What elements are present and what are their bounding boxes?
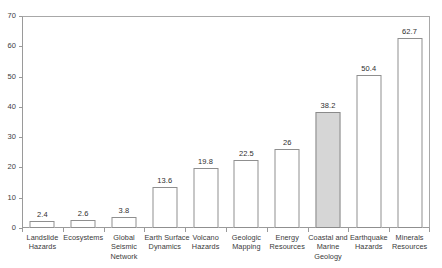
x-axis-category-label-line: Earth Surface	[144, 233, 185, 242]
bar-value-label: 3.8	[119, 206, 130, 215]
x-axis-category-label-line: Volcano	[185, 233, 226, 242]
y-axis-tick-label: 10	[7, 193, 16, 202]
bar-group: 22.5	[226, 16, 267, 228]
x-axis-tick-mark	[104, 228, 105, 232]
bar-value-label: 38.2	[320, 101, 335, 110]
bar	[193, 168, 218, 228]
y-axis-tick-label: 70	[7, 11, 16, 20]
bar	[315, 112, 340, 228]
x-axis-category-label-line: Geologic	[226, 233, 267, 242]
x-axis-category-label: LandslideHazards	[22, 233, 63, 252]
bar	[111, 217, 136, 229]
x-axis-tick-mark	[63, 228, 64, 232]
x-axis-category-label-line: Earthquake	[348, 233, 389, 242]
bar	[30, 221, 55, 228]
x-axis-category-label: GeologicMapping	[226, 233, 267, 252]
bar	[152, 187, 177, 228]
x-axis-labels: LandslideHazardsEcosystemsGlobalSeismicN…	[22, 233, 430, 268]
y-axis-tick-label: 30	[7, 132, 16, 141]
x-axis-category-label-line: Geology	[308, 252, 349, 261]
y-axis-tick-label: 60	[7, 41, 16, 50]
bar-group: 3.8	[104, 16, 145, 228]
bar	[71, 220, 96, 228]
x-axis-category-label-line: Mapping	[226, 242, 267, 251]
x-axis-ticks	[22, 228, 430, 232]
x-axis-category-label-line: Energy	[267, 233, 308, 242]
x-axis-category-label-line: Resources	[267, 242, 308, 251]
bar	[275, 149, 300, 228]
x-axis-tick-mark	[429, 228, 430, 232]
bar-group: 2.4	[22, 16, 63, 228]
x-axis-category-label: Ecosystems	[63, 233, 104, 242]
x-axis-category-label: EarthquakeHazards	[348, 233, 389, 252]
bar-value-label: 50.4	[361, 64, 376, 73]
x-axis-category-label: Earth SurfaceDynamics	[144, 233, 185, 252]
bar-group: 62.7	[389, 16, 430, 228]
bar-group: 2.6	[63, 16, 104, 228]
bar-value-label: 62.7	[402, 27, 417, 36]
x-axis-category-label-line: Minerals	[389, 233, 430, 242]
x-axis-category-label-line: Hazards	[185, 242, 226, 251]
x-axis-category-label-line: Network	[104, 252, 145, 261]
x-axis-tick-mark	[226, 228, 227, 232]
x-axis-category-label-line: Hazards	[348, 242, 389, 251]
y-axis-tick-label: 40	[7, 102, 16, 111]
bar-value-label: 19.8	[198, 157, 213, 166]
bar-chart: 010203040506070 2.42.63.813.619.822.5263…	[0, 0, 442, 268]
x-axis-category-label: GlobalSeismicNetwork	[104, 233, 145, 261]
x-axis-tick-mark	[308, 228, 309, 232]
bar	[397, 38, 422, 228]
bar-value-label: 2.4	[37, 210, 48, 219]
bar	[356, 75, 381, 228]
x-axis-category-label: VolcanoHazards	[185, 233, 226, 252]
y-axis: 010203040506070	[0, 16, 22, 228]
bar-group: 26	[267, 16, 308, 228]
x-axis-tick-mark	[185, 228, 186, 232]
x-axis-category-label: MineralsResources	[389, 233, 430, 252]
bar-group: 38.2	[308, 16, 349, 228]
x-axis-category-label-line: Ecosystems	[63, 233, 104, 242]
bar-value-label: 2.6	[78, 209, 89, 218]
x-axis-tick-mark	[267, 228, 268, 232]
x-axis-category-label-line: Coastal and	[308, 233, 349, 242]
x-axis-category-label-line: Landslide	[22, 233, 63, 242]
bar-value-label: 13.6	[157, 176, 172, 185]
bar-group: 19.8	[185, 16, 226, 228]
x-axis-category-label-line: Resources	[389, 242, 430, 251]
bar	[234, 160, 259, 228]
x-axis-tick-mark	[348, 228, 349, 232]
x-axis-category-label: EnergyResources	[267, 233, 308, 252]
bar-value-label: 22.5	[239, 149, 254, 158]
y-axis-tick-label: 20	[7, 162, 16, 171]
x-axis-tick-mark	[144, 228, 145, 232]
y-axis-tick-label: 0	[12, 223, 16, 232]
y-axis-tick-label: 50	[7, 72, 16, 81]
x-axis-category-label-line: Dynamics	[144, 242, 185, 251]
bars-layer: 2.42.63.813.619.822.52638.250.462.7	[22, 16, 430, 228]
x-axis-tick-mark	[389, 228, 390, 232]
x-axis-category-label-line: Marine	[308, 242, 349, 251]
x-axis-category-label: Coastal andMarineGeology	[308, 233, 349, 261]
bar-group: 50.4	[348, 16, 389, 228]
bar-group: 13.6	[144, 16, 185, 228]
x-axis-tick-mark	[22, 228, 23, 232]
x-axis-category-label-line: Global	[104, 233, 145, 242]
x-axis-category-label-line: Hazards	[22, 242, 63, 251]
x-axis-category-label-line: Seismic	[104, 242, 145, 251]
bar-value-label: 26	[283, 138, 292, 147]
